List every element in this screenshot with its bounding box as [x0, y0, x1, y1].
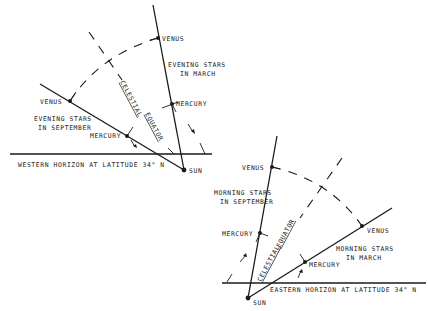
mercury-march-label: MERCURY — [176, 100, 207, 108]
venus-elongation-arc-right — [272, 167, 362, 226]
venus-september-label: VENUS — [40, 98, 62, 106]
evening-september-title-1: EVENING STARS — [34, 115, 92, 123]
left-panel-western-horizon: WESTERN HORIZON AT LATITUDE 34° N VENUS … — [10, 5, 226, 175]
mercury-march-label-right: MERCURY — [309, 261, 340, 269]
evening-september-title-2: IN SEPTEMBER — [38, 124, 91, 132]
evening-march-title-2: IN MARCH — [180, 70, 216, 78]
venus-march-label: VENUS — [162, 35, 184, 43]
celestial-label-right: CELESTIAL — [256, 244, 282, 283]
morning-march-title-1: MORNING STARS — [336, 245, 394, 253]
morning-september-title-2: IN SEPTEMBER — [220, 198, 273, 206]
equator-label-left: EQUATOR — [143, 111, 165, 142]
venus-march-label-right: VENUS — [367, 227, 389, 235]
evening-march-title-1: EVENING STARS — [168, 61, 226, 69]
celestial-equator-dashed-right — [300, 158, 342, 218]
march-ecliptic-line — [153, 5, 184, 170]
venus-march-dot-right — [360, 224, 364, 228]
eastern-horizon-label: EASTERN HORIZON AT LATITUDE 34° N — [270, 286, 417, 294]
venus-september-label-right: VENUS — [242, 164, 264, 172]
sun-right-label: SUN — [253, 299, 266, 307]
morning-march-title-2: IN MARCH — [346, 254, 382, 262]
celestial-label-left: CELESTIAL — [118, 79, 144, 118]
sun-right-dot — [246, 296, 251, 301]
western-horizon-label: WESTERN HORIZON AT LATITUDE 34° N — [18, 161, 165, 169]
mercury-september-label: MERCURY — [90, 132, 121, 140]
equator-label-right: EQUATOR — [275, 218, 297, 249]
right-panel-eastern-horizon: EASTERN HORIZON AT LATITUDE 34° N VENUS … — [214, 136, 426, 307]
morning-september-title-1: MORNING STARS — [214, 189, 272, 197]
mercury-september-label-right: MERCURY — [222, 230, 253, 238]
venus-elongation-arc — [70, 38, 158, 101]
sun-left-label: SUN — [189, 167, 202, 175]
planet-visibility-diagram: WESTERN HORIZON AT LATITUDE 34° N VENUS … — [0, 0, 428, 311]
sun-left-dot — [182, 168, 187, 173]
